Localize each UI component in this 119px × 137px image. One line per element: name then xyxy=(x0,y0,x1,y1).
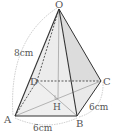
label-lateral-edge: 8cm xyxy=(14,48,34,58)
label-B: B xyxy=(76,118,83,129)
label-O: O xyxy=(55,0,63,10)
label-C: C xyxy=(103,76,111,87)
pyramid-diagram: O A B C D H 8cm 6cm 6cm xyxy=(0,0,119,137)
label-A: A xyxy=(3,114,12,125)
label-D: D xyxy=(30,76,38,87)
label-AB: 6cm xyxy=(33,123,53,133)
label-BC: 6cm xyxy=(89,102,109,112)
label-H: H xyxy=(53,102,61,112)
